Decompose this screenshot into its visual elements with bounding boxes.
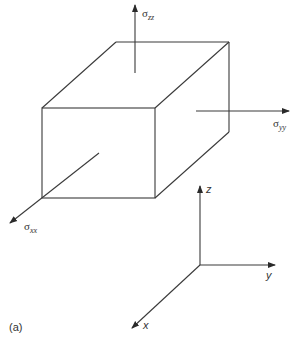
coordinate-axes xyxy=(132,186,275,328)
y-axis-label: y xyxy=(265,269,273,281)
label-sigma-yy: σyy xyxy=(273,117,286,132)
stress-cube-diagram: σzz σyy σxx z y x (a) xyxy=(0,0,299,346)
stress-arrow-xx xyxy=(10,153,99,223)
x-axis-label: x xyxy=(142,319,149,331)
z-axis-label: z xyxy=(205,183,212,195)
label-sigma-zz: σzz xyxy=(142,7,155,22)
label-sigma-xx: σxx xyxy=(24,220,37,235)
cube-top-left-edge xyxy=(42,42,116,108)
cube-top-right-edge xyxy=(155,42,229,108)
cube-bottom-right-edge xyxy=(155,132,229,198)
panel-label: (a) xyxy=(9,321,22,333)
